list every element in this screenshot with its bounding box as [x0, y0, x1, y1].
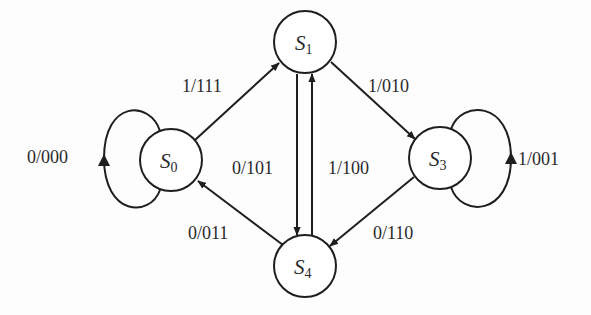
label-s4-s1: 1/100: [328, 158, 369, 178]
label-s3-s3: 1/001: [518, 149, 559, 169]
state-s0: S0: [140, 129, 202, 191]
transition-s1-s3: [331, 62, 415, 139]
state-s1: S1: [274, 11, 336, 73]
state-s3: S3: [409, 127, 471, 189]
label-s1-s4: 0/101: [232, 158, 273, 178]
label-s1-s3: 1/010: [368, 76, 409, 96]
transition-s0-s1: [195, 63, 279, 140]
arrow-up-icon: [98, 154, 110, 166]
label-s3-s4: 0/110: [373, 223, 413, 243]
diagram-canvas: S0 S1 S3 S4 0/000 1/111 1/010 0/101 1/10…: [0, 0, 591, 315]
state-diagram: S0 S1 S3 S4 0/000 1/111 1/010 0/101 1/10…: [0, 0, 591, 315]
label-s0-s0: 0/000: [27, 147, 68, 167]
arrow-up-icon: [505, 152, 517, 164]
label-s0-s1: 1/111: [182, 76, 222, 96]
state-s4: S4: [274, 235, 336, 297]
label-s4-s0: 0/011: [188, 223, 228, 243]
